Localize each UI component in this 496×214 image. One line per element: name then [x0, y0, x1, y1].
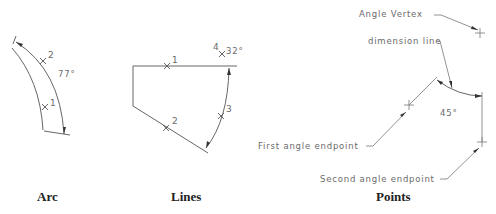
- arc-angle-label: 77°: [58, 69, 75, 79]
- lines-angle-label: 32°: [226, 46, 243, 56]
- points-angle-label: 45°: [440, 108, 457, 118]
- lines-arrow-top-icon: [227, 68, 231, 75]
- lines-point-label-2: 2: [172, 116, 178, 126]
- arc-caption: Arc: [37, 189, 58, 204]
- points-arrow-right-icon: [475, 94, 482, 98]
- points-caption: Points: [376, 189, 411, 204]
- second-endpoint-leader: [440, 148, 479, 179]
- vertex-arrow-icon: [471, 26, 478, 30]
- arc-object: [12, 48, 43, 130]
- angular-dimension-diagram: 2 1 77° Arc 1 2 3 4 32° Lines: [0, 0, 496, 214]
- first-endpoint-arrow-icon: [400, 112, 406, 117]
- lines-pick-4-icon: [219, 51, 225, 57]
- arc-point-label-1: 1: [50, 98, 56, 108]
- lines-arrow-bottom-icon: [206, 141, 210, 148]
- second-endpoint-arrow-icon: [473, 148, 479, 153]
- second-endpoint-marker-icon: [477, 137, 487, 147]
- dimension-line-callout: dimension line: [368, 36, 441, 46]
- points-panel: Angle Vertex dimension line 45° First an…: [258, 9, 487, 204]
- arc-pick-1-icon: [42, 104, 48, 110]
- arc-dimension-line: [16, 42, 64, 134]
- lines-panel: 1 2 3 4 32° Lines: [133, 42, 243, 204]
- second-endpoint-callout: Second angle endpoint: [320, 174, 435, 184]
- lines-line-2: [133, 106, 208, 153]
- lines-point-label-4: 4: [213, 42, 219, 52]
- arc-pick-2-icon: [40, 58, 46, 64]
- vertex-leader: [434, 15, 478, 30]
- first-extension-line: [409, 77, 437, 105]
- arc-extension-top: [13, 36, 16, 44]
- points-arrow-left-icon: [437, 80, 443, 85]
- arc-panel: 2 1 77° Arc: [12, 36, 75, 204]
- lines-point-label-3: 3: [226, 104, 232, 114]
- arc-extension-bottom: [44, 131, 70, 135]
- first-endpoint-leader: [366, 112, 406, 146]
- points-dimension-arc: [437, 80, 482, 96]
- first-endpoint-callout: First angle endpoint: [258, 141, 359, 151]
- vertex-callout: Angle Vertex: [359, 9, 423, 19]
- lines-point-label-1: 1: [172, 55, 178, 65]
- arc-point-label-2: 2: [48, 50, 54, 60]
- lines-caption: Lines: [171, 189, 201, 204]
- lines-pick-3-icon: [218, 113, 224, 119]
